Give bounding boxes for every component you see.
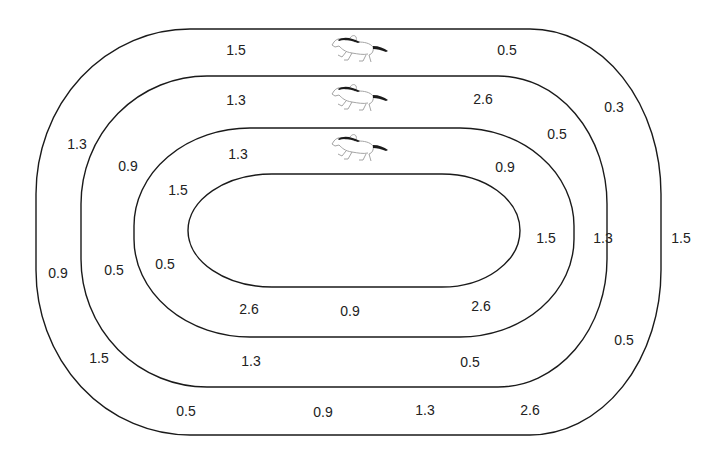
outer-lane-value: 1.3 bbox=[67, 137, 86, 151]
middle-lane-value: 0.5 bbox=[547, 127, 566, 141]
inner-lane-value: 1.5 bbox=[536, 231, 555, 245]
middle-lane-value: 0.5 bbox=[460, 355, 479, 369]
outer-lane-value: 1.3 bbox=[415, 403, 434, 417]
outer-lane-value: 0.5 bbox=[614, 333, 633, 347]
middle-lane-value: 1.3 bbox=[226, 93, 245, 107]
middle-lane-value: 1.3 bbox=[593, 231, 612, 245]
inner-lane-value: 0.5 bbox=[155, 257, 174, 271]
middle-lane-value: 1.3 bbox=[241, 354, 260, 368]
outer-lane-value: 1.5 bbox=[226, 43, 245, 57]
race-track-diagram: 1.5 0.5 0.3 1.5 0.5 2.6 1.3 0.9 0.5 1.5 … bbox=[0, 0, 715, 463]
outer-lane-value: 1.5 bbox=[89, 351, 108, 365]
outer-lane-value: 0.5 bbox=[497, 43, 516, 57]
middle-lane-value: 0.9 bbox=[118, 159, 137, 173]
inner-lane-value: 1.5 bbox=[168, 183, 187, 197]
inner-lane-value: 2.6 bbox=[239, 302, 258, 316]
second-track-boundary bbox=[81, 76, 607, 387]
racing-horse-icon bbox=[330, 33, 394, 65]
outer-lane-value: 0.5 bbox=[176, 404, 195, 418]
outer-lane-value: 0.9 bbox=[313, 405, 332, 419]
outer-lane-value: 2.6 bbox=[520, 403, 539, 417]
inner-lane-value: 2.6 bbox=[471, 299, 490, 313]
inner-lane-value: 0.9 bbox=[495, 160, 514, 174]
inner-lane-value: 1.3 bbox=[228, 147, 247, 161]
outer-lane-value: 1.5 bbox=[671, 231, 690, 245]
racing-horse-icon bbox=[330, 82, 394, 114]
middle-lane-value: 0.5 bbox=[104, 263, 123, 277]
racing-horse-icon bbox=[330, 132, 394, 164]
outer-lane-value: 0.9 bbox=[48, 266, 67, 280]
inner-track-boundary bbox=[188, 174, 520, 287]
outer-lane-value: 0.3 bbox=[604, 100, 623, 114]
middle-lane-value: 2.6 bbox=[473, 92, 492, 106]
inner-lane-value: 0.9 bbox=[340, 304, 359, 318]
